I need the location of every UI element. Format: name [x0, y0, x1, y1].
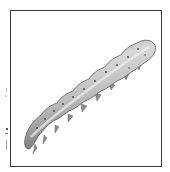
- margin-marks: [0, 0, 9, 172]
- image-frame: Grayscale illustration of a caterpillar …: [10, 10, 162, 167]
- caterpillar-illustration: [11, 11, 161, 166]
